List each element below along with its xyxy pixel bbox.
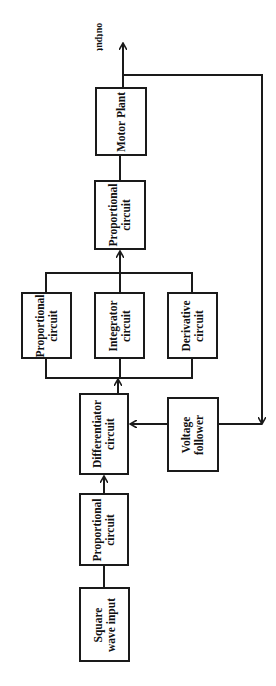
proportional-lower-line1: Proportional — [91, 498, 104, 561]
proportional-upper-line1: Proportional — [107, 183, 120, 246]
integrator-line1: Integrator — [107, 300, 120, 351]
proportional-upper-block: Proportional circuit — [94, 180, 146, 250]
differentiator-block: Differentiator circuit — [79, 393, 129, 475]
proportional-parallel-line1: Proportional — [34, 294, 47, 357]
square-wave-line2: wave input — [105, 598, 118, 652]
differentiator-line1: Differentiator — [91, 400, 104, 468]
proportional-parallel-block: Proportional circuit — [21, 292, 72, 359]
proportional-upper-line2: circuit — [120, 183, 133, 246]
proportional-lower-block: Proportional circuit — [79, 493, 129, 566]
motor-plant-block: Motor Plant — [95, 87, 147, 156]
voltage-follower-line2: follower — [193, 414, 206, 454]
square-wave-input-block: Square wave input — [79, 587, 130, 662]
motor-plant-label: Motor Plant — [115, 91, 127, 151]
proportional-parallel-line2: circuit — [47, 294, 60, 357]
voltage-follower-line1: Voltage — [180, 414, 193, 454]
differentiator-line2: circuit — [104, 400, 117, 468]
square-wave-line1: Square — [92, 598, 105, 652]
proportional-lower-line2: circuit — [104, 498, 117, 561]
integrator-line2: circuit — [120, 300, 133, 351]
derivative-block: Derivative circuit — [167, 292, 218, 359]
integrator-block: Integrator circuit — [94, 292, 145, 359]
output-label: output — [95, 23, 106, 51]
derivative-line1: Derivative — [180, 300, 193, 351]
derivative-line2: circuit — [193, 300, 206, 351]
voltage-follower-block: Voltage follower — [167, 397, 219, 472]
